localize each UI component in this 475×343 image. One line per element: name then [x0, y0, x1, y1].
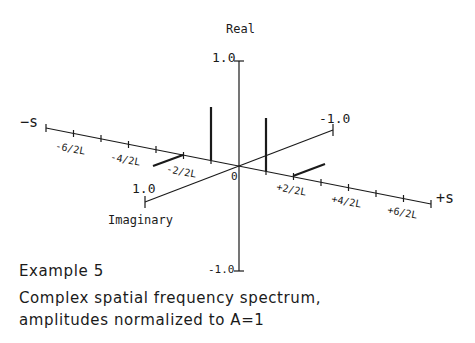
s-tick-pos6: +6/2L — [387, 204, 419, 221]
caption-line-1: Complex spatial frequency spectrum, — [19, 289, 321, 307]
real-bottom-value: -1.0 — [208, 263, 235, 276]
imag-far-value: -1.0 — [319, 111, 350, 126]
s-tick-pos4: +4/2L — [331, 193, 363, 210]
s-tick-neg4: -4/2L — [110, 151, 142, 168]
origin-label: 0 — [231, 170, 238, 183]
s-tick-pos2: +2/2L — [276, 181, 308, 198]
real-axis-label: Real — [226, 22, 255, 36]
imaginary-axis-label: Imaginary — [108, 213, 173, 227]
caption-title: Example 5 — [19, 262, 104, 280]
real-top-value: 1.0 — [212, 50, 235, 65]
s-tick-neg2: -2/2L — [166, 163, 198, 180]
caption-line-2: amplitudes normalized to A=1 — [19, 311, 265, 329]
imag-near-value: 1.0 — [132, 181, 155, 196]
s-plus-label: +s — [436, 189, 454, 207]
s-minus-label: −s — [20, 113, 38, 131]
component-imag-pos2 — [293, 164, 325, 176]
s-tick-neg6: -6/2L — [55, 140, 87, 157]
